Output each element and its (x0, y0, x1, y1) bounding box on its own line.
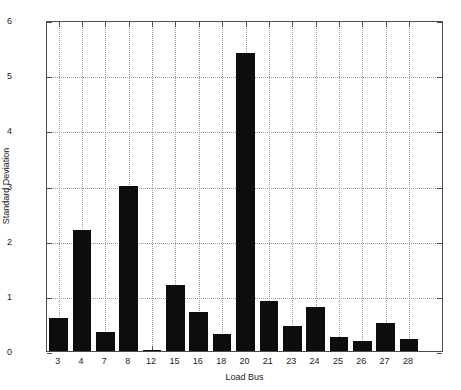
x-tick-label: 4 (79, 356, 84, 366)
x-tick-label: 8 (125, 356, 130, 366)
bar (143, 350, 162, 351)
x-tick-label: 15 (169, 356, 179, 366)
bar (73, 230, 92, 351)
x-tick-label: 20 (239, 356, 249, 366)
y-tick-mark (437, 353, 442, 354)
x-tick-label: 27 (380, 356, 390, 366)
y-tick-label: 6 (0, 16, 12, 26)
y-tick-label: 4 (0, 126, 12, 136)
y-tick-label: 3 (0, 182, 12, 192)
y-tick-label: 2 (0, 237, 12, 247)
bar (376, 323, 395, 351)
x-tick-label: 28 (403, 356, 413, 366)
bar (166, 285, 185, 351)
y-tick-label: 0 (0, 347, 12, 357)
x-tick-label: 16 (193, 356, 203, 366)
bar (353, 341, 372, 351)
bar (236, 53, 255, 351)
bar (189, 312, 208, 351)
x-tick-label: 21 (263, 356, 273, 366)
x-tick-label: 26 (356, 356, 366, 366)
y-tick-mark (47, 353, 52, 354)
x-axis-title: Load Bus (46, 372, 443, 382)
x-tick-label: 18 (216, 356, 226, 366)
bar (213, 334, 232, 351)
bar (306, 307, 325, 351)
x-tick-label: 3 (55, 356, 60, 366)
x-tick-label: 7 (102, 356, 107, 366)
x-tick-label: 23 (286, 356, 296, 366)
bar (283, 326, 302, 351)
chart-figure: Standard Deviation Load Bus 0123456 3478… (0, 0, 461, 390)
bar-series (47, 22, 442, 351)
y-tick-label: 1 (0, 292, 12, 302)
y-tick-label: 5 (0, 71, 12, 81)
bar (49, 318, 68, 351)
plot-area (46, 21, 443, 352)
x-tick-label: 25 (333, 356, 343, 366)
bar (260, 301, 279, 351)
bar (119, 186, 138, 352)
bar (330, 337, 349, 351)
bar (96, 332, 115, 351)
x-tick-label: 24 (310, 356, 320, 366)
bar (400, 339, 419, 351)
x-tick-label: 12 (146, 356, 156, 366)
